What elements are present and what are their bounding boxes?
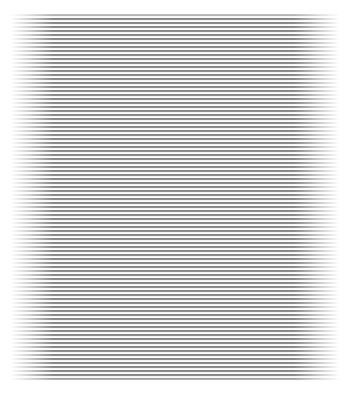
pattern-canvas [0,0,353,401]
horizontal-stripe-pattern [10,14,340,382]
